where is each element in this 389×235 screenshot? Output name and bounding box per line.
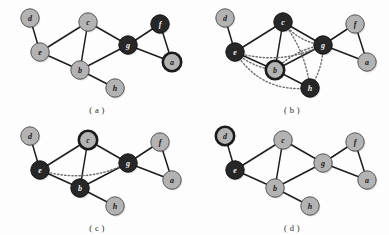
node-label-a: a	[170, 176, 174, 185]
node-label-e: e	[233, 48, 237, 57]
node-f[interactable]: f	[346, 15, 366, 35]
node-b[interactable]: b	[71, 179, 91, 199]
panel-a-graph: decbhgfa	[0, 0, 194, 117]
node-label-h: h	[308, 202, 313, 211]
node-a[interactable]: a	[358, 53, 378, 73]
node-label-b: b	[78, 184, 82, 193]
node-g[interactable]: g	[119, 154, 139, 174]
panel-a-caption: ( a )	[0, 105, 194, 115]
node-g[interactable]: g	[314, 154, 334, 174]
panel-d-graph: decbhgfa	[195, 118, 389, 235]
panel-b-caption: ( b )	[195, 105, 389, 115]
node-d[interactable]: d	[216, 127, 236, 147]
node-h[interactable]: h	[106, 79, 126, 99]
node-label-e: e	[233, 166, 237, 175]
node-b[interactable]: b	[266, 179, 286, 199]
node-a[interactable]: a	[358, 171, 378, 191]
node-layer: decbhgfa	[21, 9, 183, 99]
node-h[interactable]: h	[106, 197, 126, 217]
node-label-c: c	[281, 136, 285, 145]
node-label-c: c	[86, 18, 90, 27]
node-label-a: a	[365, 58, 369, 67]
panel-a: decbhgfa( a )	[0, 0, 194, 117]
node-label-e: e	[38, 166, 42, 175]
edge-layer	[225, 136, 367, 206]
node-f[interactable]: f	[151, 133, 171, 153]
node-e[interactable]: e	[31, 161, 50, 181]
node-label-b: b	[78, 66, 82, 75]
edge-layer	[30, 136, 172, 206]
panel-c: decbhgfa( c )	[0, 118, 194, 235]
node-d[interactable]: d	[216, 9, 236, 29]
node-label-g: g	[125, 41, 130, 50]
node-label-a: a	[365, 176, 369, 185]
node-label-g: g	[320, 41, 325, 50]
node-f[interactable]: f	[346, 133, 366, 153]
edge-layer	[225, 18, 367, 88]
node-d[interactable]: d	[21, 127, 41, 147]
node-c[interactable]: c	[79, 131, 99, 151]
node-label-h: h	[113, 84, 118, 93]
node-c[interactable]: c	[274, 131, 294, 151]
node-b[interactable]: b	[71, 61, 91, 81]
panel-b: decbhgfa( b )	[195, 0, 389, 117]
node-c[interactable]: c	[274, 13, 294, 33]
node-label-b: b	[273, 66, 277, 75]
node-label-g: g	[125, 159, 130, 168]
node-e[interactable]: e	[226, 43, 245, 63]
node-h[interactable]: h	[301, 197, 321, 217]
panel-c-caption: ( c )	[0, 223, 194, 233]
figure-container: decbhgfa( a )decbhgfa( b )decbhgfa( c )d…	[0, 0, 389, 235]
node-h[interactable]: h	[301, 79, 321, 99]
node-label-g: g	[320, 159, 325, 168]
node-d[interactable]: d	[21, 9, 41, 29]
node-a[interactable]: a	[163, 53, 183, 73]
node-g[interactable]: g	[314, 36, 334, 56]
node-label-c: c	[86, 136, 90, 145]
node-label-e: e	[38, 48, 42, 57]
node-label-a: a	[170, 58, 174, 67]
node-e[interactable]: e	[31, 43, 50, 63]
node-layer: decbhgfa	[216, 127, 377, 217]
node-layer: decbhgfa	[21, 127, 183, 217]
node-label-b: b	[273, 184, 277, 193]
node-f[interactable]: f	[151, 15, 171, 35]
panel-d-caption: ( d )	[195, 223, 389, 233]
panel-d: decbhgfa( d )	[195, 118, 389, 235]
node-g[interactable]: g	[119, 36, 139, 56]
node-b[interactable]: b	[266, 61, 286, 81]
node-a[interactable]: a	[163, 171, 183, 191]
panel-b-graph: decbhgfa	[195, 0, 389, 117]
node-label-c: c	[281, 18, 285, 27]
edge-layer	[30, 18, 172, 88]
node-e[interactable]: e	[226, 161, 245, 181]
node-label-h: h	[308, 84, 313, 93]
node-c[interactable]: c	[79, 13, 99, 33]
panel-c-graph: decbhgfa	[0, 118, 194, 235]
node-label-h: h	[113, 202, 118, 211]
